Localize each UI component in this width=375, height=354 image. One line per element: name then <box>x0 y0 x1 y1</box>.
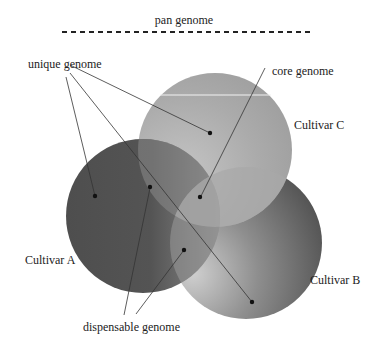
cultivar-c-label: Cultivar C <box>294 118 344 132</box>
dispensable-genome-label: dispensable genome <box>83 320 180 334</box>
dot-unique-c <box>208 131 212 135</box>
dot-dispensable-ab <box>182 248 186 252</box>
dot-core <box>198 195 202 199</box>
dot-dispensable-ac <box>148 185 152 189</box>
venn-circles <box>66 73 322 319</box>
core-genome-label: core genome <box>272 64 334 78</box>
pan-genome-label: pan genome <box>155 13 213 27</box>
pan-genome-venn-diagram: pan genome <box>0 0 375 354</box>
dot-unique-b <box>250 300 254 304</box>
cultivar-b-label: Cultivar B <box>310 273 360 287</box>
dot-unique-a <box>93 194 97 198</box>
diagram-canvas: pan genome <box>0 0 375 354</box>
unique-genome-label: unique genome <box>28 57 102 71</box>
cultivar-a-label: Cultivar A <box>25 253 76 267</box>
